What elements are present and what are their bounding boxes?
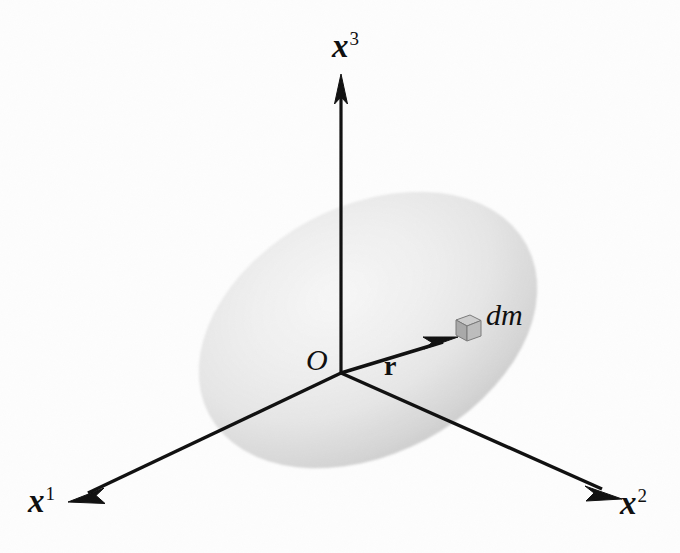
axis-label-x1-base: x bbox=[28, 483, 45, 519]
mass-element-cube bbox=[456, 315, 481, 341]
axis-label-x3-base: x bbox=[332, 28, 349, 64]
axis-x2-arrowhead bbox=[585, 486, 622, 501]
axis-x1-arrowhead bbox=[68, 488, 105, 504]
axis-label-x2-sup: 2 bbox=[638, 485, 648, 506]
vector-r-arrowhead bbox=[423, 337, 458, 349]
axis-label-x3-sup: 3 bbox=[350, 28, 360, 49]
axis-label-x1-sup: 1 bbox=[46, 483, 56, 504]
axis-x1 bbox=[68, 373, 341, 504]
axis-label-x2: x2 bbox=[620, 487, 647, 520]
axis-x2-line bbox=[341, 373, 602, 489]
mass-element-label: dm bbox=[486, 300, 523, 330]
origin-label: O bbox=[306, 345, 328, 375]
geometry-layer bbox=[0, 0, 680, 553]
axis-x1-line bbox=[88, 373, 341, 493]
axis-x3 bbox=[335, 74, 348, 373]
vector-label-r: r bbox=[384, 352, 396, 380]
axis-label-x1: x1 bbox=[28, 485, 55, 518]
axis-label-x3: x3 bbox=[332, 30, 359, 63]
axis-label-x2-base: x bbox=[620, 485, 637, 521]
position-vector-r bbox=[341, 337, 458, 373]
rigid-body-diagram: x3 x1 x2 O r dm bbox=[0, 0, 680, 553]
axis-x2 bbox=[341, 373, 622, 501]
